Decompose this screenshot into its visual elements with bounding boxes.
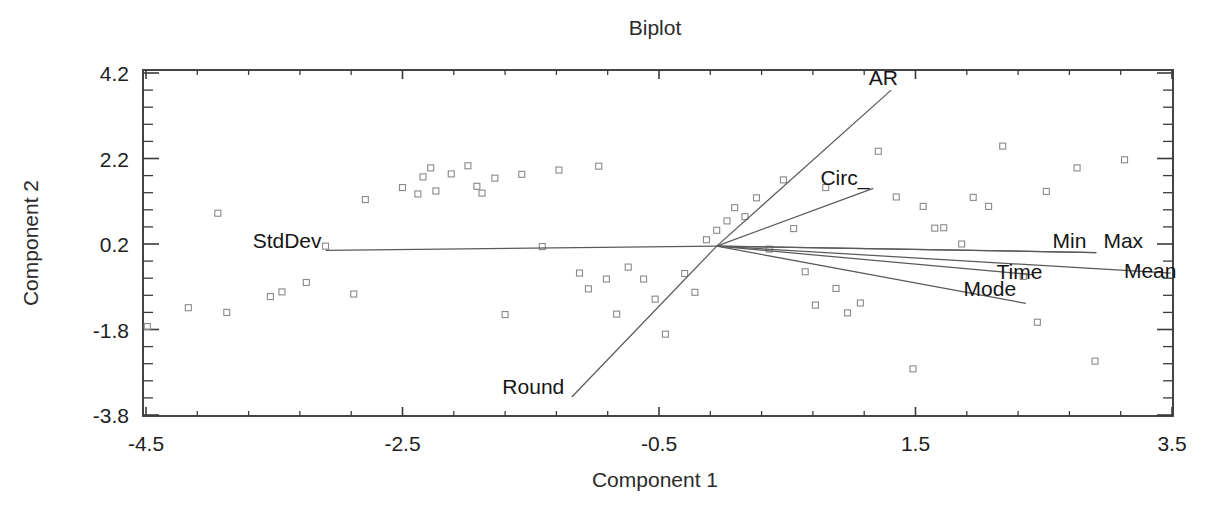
data-point bbox=[303, 279, 309, 285]
loading-label-ar: AR bbox=[869, 66, 898, 89]
data-point bbox=[400, 185, 406, 191]
data-point bbox=[753, 195, 759, 201]
loading-vector-round bbox=[572, 246, 717, 397]
loading-vector-circ bbox=[717, 188, 873, 246]
data-point bbox=[970, 194, 976, 200]
data-point bbox=[1043, 188, 1049, 194]
data-point bbox=[941, 225, 947, 231]
chart-title: Biplot bbox=[629, 16, 682, 39]
y-tick-label: 2.2 bbox=[100, 148, 129, 171]
loading-label-round: Round bbox=[502, 375, 564, 398]
data-point bbox=[479, 190, 485, 196]
loading-label-mean: Mean bbox=[1124, 259, 1177, 282]
data-point bbox=[1122, 157, 1128, 163]
loading-label-circ: Circ_ bbox=[820, 166, 869, 190]
data-point bbox=[791, 226, 797, 232]
x-tick-label: 3.5 bbox=[1157, 432, 1186, 455]
data-point bbox=[492, 175, 498, 181]
data-point bbox=[603, 276, 609, 282]
data-point bbox=[351, 291, 357, 297]
data-point bbox=[932, 225, 938, 231]
data-point bbox=[780, 177, 786, 183]
data-point bbox=[576, 270, 582, 276]
data-point bbox=[986, 203, 992, 209]
data-point bbox=[448, 171, 454, 177]
data-point bbox=[224, 309, 230, 315]
data-point bbox=[323, 243, 329, 249]
loading-vector-stddev bbox=[326, 246, 717, 250]
data-point bbox=[732, 205, 738, 211]
data-point bbox=[1092, 358, 1098, 364]
data-point bbox=[714, 227, 720, 233]
data-point bbox=[585, 286, 591, 292]
data-point bbox=[465, 163, 471, 169]
loading-label-min: Min bbox=[1052, 229, 1086, 252]
data-point bbox=[845, 310, 851, 316]
data-point bbox=[641, 276, 647, 282]
data-point bbox=[474, 183, 480, 189]
data-point bbox=[502, 312, 508, 318]
y-tick-label: -1.8 bbox=[93, 319, 129, 342]
data-point bbox=[893, 194, 899, 200]
data-point bbox=[692, 289, 698, 295]
data-point bbox=[703, 237, 709, 243]
y-tick-label: 0.2 bbox=[100, 233, 129, 256]
data-point bbox=[875, 148, 881, 154]
data-point bbox=[420, 174, 426, 180]
biplot-svg: Biplot-4.5-2.5-0.51.53.5-3.8-1.80.22.24.… bbox=[0, 0, 1227, 513]
data-point bbox=[625, 264, 631, 270]
data-point bbox=[1034, 319, 1040, 325]
data-point bbox=[362, 197, 368, 203]
x-axis-title: Component 1 bbox=[592, 468, 718, 491]
x-tick-label: -2.5 bbox=[384, 432, 420, 455]
loading-label-mode: Mode bbox=[964, 277, 1017, 300]
y-axis-title: Component 2 bbox=[19, 180, 42, 306]
data-point bbox=[920, 203, 926, 209]
data-point bbox=[556, 167, 562, 173]
data-point bbox=[1074, 165, 1080, 171]
data-point bbox=[662, 331, 668, 337]
data-point bbox=[802, 269, 808, 275]
data-point bbox=[279, 289, 285, 295]
loading-label-stddev: StdDev bbox=[253, 229, 322, 252]
data-point bbox=[833, 285, 839, 291]
data-point bbox=[724, 218, 730, 224]
data-point bbox=[959, 241, 965, 247]
biplot-figure: Biplot-4.5-2.5-0.51.53.5-3.8-1.80.22.24.… bbox=[0, 0, 1227, 513]
data-point bbox=[857, 300, 863, 306]
data-point bbox=[614, 311, 620, 317]
data-point bbox=[1000, 143, 1006, 149]
data-point bbox=[185, 305, 191, 311]
y-tick-label: -3.8 bbox=[93, 404, 129, 427]
data-point bbox=[910, 366, 916, 372]
data-point bbox=[415, 191, 421, 197]
data-point bbox=[812, 302, 818, 308]
data-point bbox=[144, 324, 150, 330]
data-point bbox=[652, 296, 658, 302]
data-point bbox=[596, 163, 602, 169]
y-tick-label: 4.2 bbox=[100, 62, 129, 85]
x-tick-label: -0.5 bbox=[641, 432, 677, 455]
x-tick-label: -4.5 bbox=[128, 432, 164, 455]
x-tick-label: 1.5 bbox=[901, 432, 930, 455]
data-point bbox=[682, 271, 688, 277]
data-point bbox=[428, 165, 434, 171]
data-point bbox=[215, 210, 221, 216]
loading-label-max: Max bbox=[1103, 229, 1143, 252]
data-point bbox=[519, 171, 525, 177]
data-point bbox=[433, 188, 439, 194]
data-point bbox=[267, 294, 273, 300]
